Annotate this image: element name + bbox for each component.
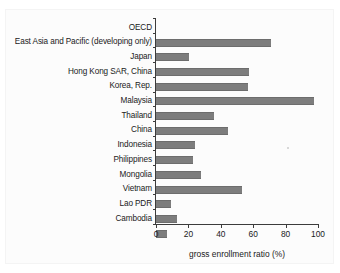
bar bbox=[156, 39, 271, 47]
y-axis-tick-label: Mongolia bbox=[120, 170, 152, 179]
y-axis-tick bbox=[153, 106, 156, 107]
y-axis-tick-label: Korea, Rep. bbox=[109, 81, 152, 90]
x-axis-line bbox=[155, 224, 319, 225]
y-axis-tick bbox=[153, 18, 156, 19]
y-axis-tick bbox=[153, 92, 156, 93]
y-axis-tick bbox=[153, 121, 156, 122]
y-axis-tick-label: Vietnam bbox=[123, 184, 152, 193]
y-axis-tick bbox=[153, 209, 156, 210]
chart-canvas: OECD East Asia and Pacific (developing o… bbox=[0, 0, 340, 273]
x-axis-tick-label: 100 bbox=[311, 229, 325, 239]
x-axis-tick bbox=[286, 224, 287, 228]
y-axis-tick-label: Hong Kong SAR, China bbox=[68, 67, 152, 76]
x-axis-tick-label: 40 bbox=[216, 229, 225, 239]
y-axis-tick-label: East Asia and Pacific (developing only) bbox=[15, 37, 152, 46]
x-axis-tick-label: 60 bbox=[249, 229, 258, 239]
y-axis-tick bbox=[153, 194, 156, 195]
y-axis-tick-label: China bbox=[131, 125, 152, 134]
y-axis-tick bbox=[153, 136, 156, 137]
x-axis-tick-label: 0 bbox=[154, 229, 159, 239]
y-axis-tick bbox=[153, 33, 156, 34]
bar bbox=[156, 97, 314, 105]
bar bbox=[156, 68, 249, 76]
y-axis-tick bbox=[153, 180, 156, 181]
bar bbox=[156, 215, 177, 223]
y-axis-tick bbox=[153, 165, 156, 166]
plot-area: 0 20 40 60 80 100 bbox=[156, 18, 318, 224]
x-axis-tick bbox=[221, 224, 222, 228]
bar bbox=[156, 141, 195, 149]
x-axis-title: gross enrollment ratio (%) bbox=[156, 249, 318, 259]
y-axis-tick bbox=[153, 62, 156, 63]
x-axis-tick bbox=[156, 224, 157, 228]
bar bbox=[156, 171, 201, 179]
bar bbox=[156, 112, 214, 120]
x-axis-tick bbox=[253, 224, 254, 228]
bar bbox=[156, 53, 189, 61]
bar bbox=[156, 186, 242, 194]
y-axis-tick bbox=[153, 47, 156, 48]
y-axis-tick bbox=[153, 77, 156, 78]
figure-container: OECD East Asia and Pacific (developing o… bbox=[0, 0, 340, 273]
x-axis-tick bbox=[318, 224, 319, 228]
bar bbox=[156, 200, 171, 208]
y-axis-tick-label: Indonesia bbox=[117, 140, 152, 149]
y-axis-tick bbox=[153, 150, 156, 151]
y-axis-tick-label: OECD bbox=[129, 23, 152, 32]
y-axis-tick-label: Thailand bbox=[121, 111, 152, 120]
x-axis-tick-label: 20 bbox=[184, 229, 193, 239]
bar bbox=[156, 127, 228, 135]
x-axis-tick-label: 80 bbox=[281, 229, 290, 239]
x-axis-tick bbox=[188, 224, 189, 228]
y-axis-tick-label: Cambodia bbox=[115, 214, 152, 223]
bar bbox=[156, 156, 193, 164]
bar bbox=[156, 83, 248, 91]
scan-artifact bbox=[287, 147, 289, 149]
y-axis-tick-label: Lao PDR bbox=[119, 199, 152, 208]
y-axis-tick-label: Malaysia bbox=[120, 96, 152, 105]
y-axis-tick-label: Philippines bbox=[114, 155, 153, 164]
y-axis-tick-label: Japan bbox=[130, 52, 152, 61]
